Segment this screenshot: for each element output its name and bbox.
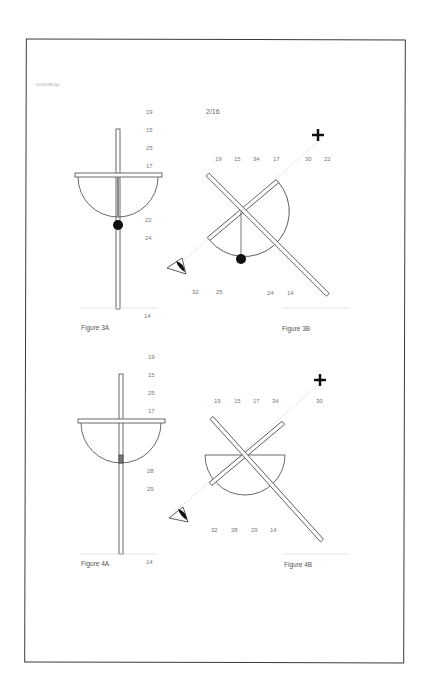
ref-28: 28	[147, 468, 154, 474]
ref-17: 17	[253, 398, 260, 404]
ref-19: 19	[214, 398, 221, 404]
ref-22: 22	[145, 217, 152, 223]
ref-15: 15	[234, 156, 241, 162]
ref-30: 30	[316, 398, 323, 404]
ref-17: 17	[273, 156, 280, 162]
figure-4b-caption: Figure 4B	[284, 561, 312, 568]
figure-4a-drawing	[78, 374, 165, 554]
figure-3a-caption: Figure 3A	[81, 324, 109, 331]
ref-14: 14	[144, 313, 151, 319]
target-cross-icon	[314, 374, 326, 386]
ref-28: 28	[231, 527, 238, 533]
ref-14: 14	[146, 559, 153, 565]
ref-29: 29	[147, 486, 154, 492]
target-cross-icon	[312, 129, 324, 141]
ref-25: 25	[216, 289, 223, 295]
ref-24: 24	[267, 290, 274, 296]
ref-30: 30	[305, 156, 312, 162]
plumb-bob-icon	[236, 254, 246, 264]
ref-22: 22	[324, 156, 331, 162]
ref-19: 19	[215, 156, 222, 162]
plumb-bob-icon	[113, 220, 123, 230]
ref-17: 17	[146, 163, 153, 169]
ref-17: 17	[148, 408, 155, 414]
ref-15: 15	[148, 372, 155, 378]
ref-15: 15	[234, 398, 241, 404]
ref-29: 29	[251, 527, 258, 533]
ref-32: 32	[192, 289, 199, 295]
patent-drawing	[0, 0, 426, 692]
ref-14: 14	[270, 527, 277, 533]
ref-15: 15	[146, 127, 153, 133]
ref-34: 34	[253, 156, 260, 162]
ref-19: 19	[146, 109, 153, 115]
figure-4a-caption: Figure 4A	[81, 560, 109, 567]
ref-19: 19	[148, 354, 155, 360]
ref-25: 25	[146, 145, 153, 151]
ref-24: 24	[145, 235, 152, 241]
eye-icon	[169, 507, 188, 522]
eye-icon	[167, 258, 186, 274]
ref-25: 25	[148, 390, 155, 396]
figure-3b-caption: Figure 3B	[282, 325, 310, 332]
ref-14: 14	[287, 290, 294, 296]
ref-34: 34	[272, 398, 279, 404]
ref-32: 32	[211, 527, 218, 533]
